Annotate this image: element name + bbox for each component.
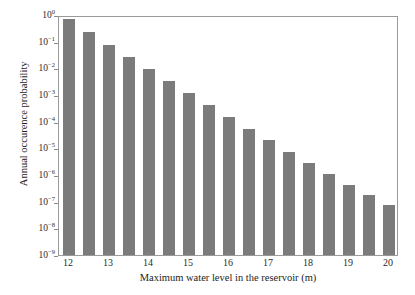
y-axis-tick-mark: [54, 203, 58, 204]
y-axis-tick-mark: [54, 176, 58, 177]
bars-layer: [59, 17, 397, 255]
y-axis-title: Annual occurence probability: [18, 4, 30, 244]
bar: [143, 69, 154, 255]
y-axis-tick-label: 10−8: [39, 225, 55, 235]
plot-area: [58, 16, 398, 256]
x-axis-tick-label: 20: [383, 258, 393, 268]
bar: [283, 152, 294, 255]
x-axis-tick-mark: [148, 252, 149, 256]
bar: [343, 185, 354, 255]
x-axis-tick-label: 17: [263, 258, 273, 268]
bar: [383, 205, 394, 255]
x-axis-tick-mark: [388, 252, 389, 256]
x-axis-tick-mark: [68, 252, 69, 256]
x-axis-tick-mark: [348, 252, 349, 256]
bar: [163, 81, 174, 256]
bar: [263, 140, 274, 255]
x-axis-title: Maximum water level in the reservoir (m): [58, 272, 398, 284]
y-axis-tick-mark: [54, 96, 58, 97]
y-axis-tick-mark: [54, 123, 58, 124]
bar: [203, 105, 214, 255]
y-axis-tick-label: 10−6: [39, 171, 55, 181]
x-axis-tick-mark: [268, 252, 269, 256]
x-axis-tick-label: 13: [103, 258, 113, 268]
bar: [183, 93, 194, 255]
y-axis-tick-mark: [54, 149, 58, 150]
bar: [123, 57, 134, 255]
y-axis-tick-mark: [54, 229, 58, 230]
x-axis-tick-mark: [308, 252, 309, 256]
bar: [83, 32, 94, 255]
x-axis-tick-label: 14: [143, 258, 153, 268]
y-axis-tick-label: 10−7: [39, 198, 55, 208]
x-axis-tick-label: 19: [343, 258, 353, 268]
bar: [303, 163, 314, 255]
bar: [363, 195, 374, 255]
x-axis-tick-label: 15: [183, 258, 193, 268]
bar: [243, 129, 254, 255]
x-axis-tick-label: 12: [63, 258, 73, 268]
y-axis-tick-mark: [54, 256, 58, 257]
y-axis-tick-label: 10−4: [39, 118, 55, 128]
y-axis-tick-mark: [54, 69, 58, 70]
y-axis-tick-mark: [54, 16, 58, 17]
y-axis-tick-label: 10−2: [39, 65, 55, 75]
bar: [63, 19, 74, 255]
bar: [103, 45, 114, 255]
bar: [323, 174, 334, 255]
y-axis-tick-label: 10−1: [39, 38, 55, 48]
x-axis-tick-label: 16: [223, 258, 233, 268]
bar: [223, 117, 234, 255]
x-axis-tick-mark: [228, 252, 229, 256]
x-axis-tick-label: 18: [303, 258, 313, 268]
x-axis-tick-mark: [188, 252, 189, 256]
x-axis-tick-mark: [108, 252, 109, 256]
y-axis-tick-label: 10−5: [39, 145, 55, 155]
y-axis-tick-label: 10−3: [39, 91, 55, 101]
y-axis-tick-mark: [54, 43, 58, 44]
chart-figure: 10010−110−210−310−410−510−610−710−810−9 …: [0, 0, 415, 295]
